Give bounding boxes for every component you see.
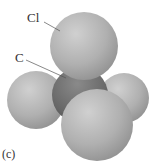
chlorine-atom-top [50,12,118,80]
ccl4-space-filling-model [0,0,151,167]
chlorine-label: Cl [27,11,39,24]
carbon-label: C [15,51,24,64]
chlorine-atom-front [61,89,133,161]
figure-panel-label: (c) [2,148,15,160]
